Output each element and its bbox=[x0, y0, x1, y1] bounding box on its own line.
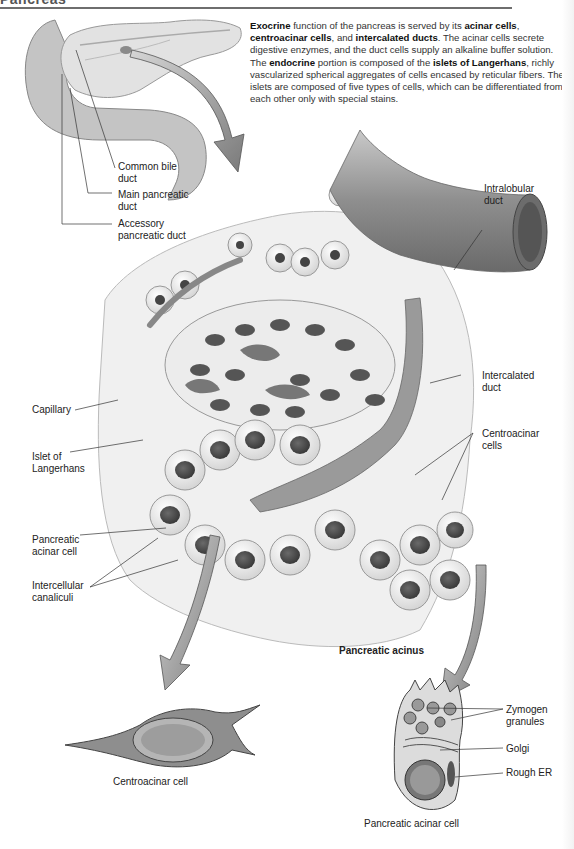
caption-pancreatic-acinar-cell: Pancreatic acinar cell bbox=[364, 818, 459, 830]
centroacinar-cell-drawing bbox=[65, 705, 260, 767]
label-golgi: Golgi bbox=[506, 743, 529, 755]
label-main-pancreatic-duct: Main pancreaticduct bbox=[118, 189, 189, 213]
label-rough-er: Rough ER bbox=[506, 767, 552, 779]
label-intercalated-duct: Intercalatedduct bbox=[482, 370, 534, 394]
label-islet-of-langerhans: Islet ofLangerhans bbox=[32, 451, 85, 475]
caption-centroacinar-cell: Centroacinar cell bbox=[113, 776, 188, 788]
pancreas-illustration bbox=[0, 0, 574, 849]
label-common-bile-duct: Common bileduct bbox=[118, 161, 177, 185]
label-pancreatic-acinar-cell: Pancreaticacinar cell bbox=[32, 534, 79, 558]
label-intralobular-duct: Intralobularduct bbox=[484, 183, 534, 207]
page-edge-shadow bbox=[562, 0, 574, 849]
acinar-cell-drawing bbox=[394, 678, 462, 810]
label-pancreatic-acinus: Pancreatic acinus bbox=[339, 645, 424, 657]
label-capillary: Capillary bbox=[32, 404, 71, 416]
label-accessory-pancreatic-duct: Accessorypancreatic duct bbox=[118, 218, 186, 242]
label-intercellular-canaliculi: Intercellularcanaliculi bbox=[32, 580, 84, 604]
label-zymogen-granules: Zymogengranules bbox=[506, 704, 548, 728]
label-centroacinar-cells: Centroacinarcells bbox=[482, 428, 539, 452]
